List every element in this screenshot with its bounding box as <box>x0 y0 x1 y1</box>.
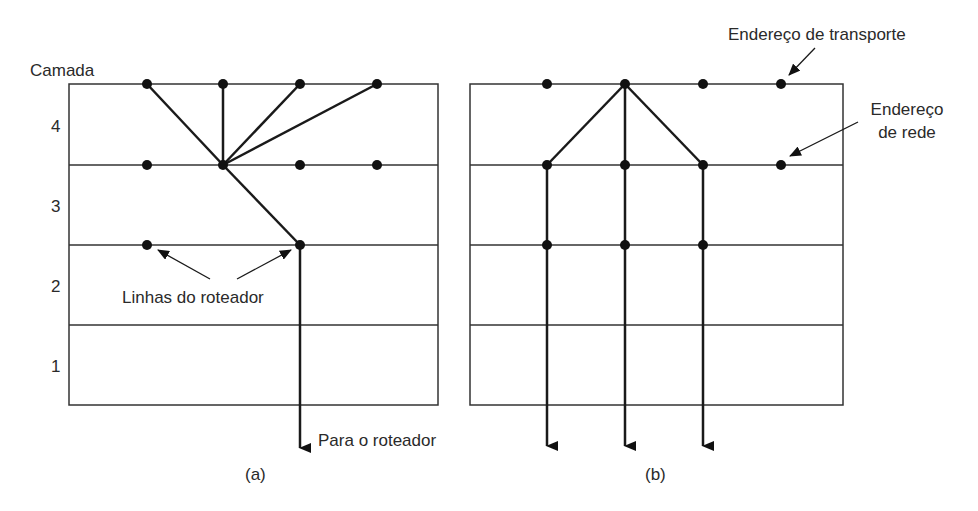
node <box>698 240 708 250</box>
panel-a <box>69 79 438 448</box>
node <box>295 240 305 250</box>
node <box>698 160 708 170</box>
node <box>698 79 708 89</box>
panel-b-connections <box>547 84 703 446</box>
node <box>776 160 786 170</box>
node <box>295 79 305 89</box>
router-lines-arrows <box>158 250 291 279</box>
network-address-line2: de rede <box>862 124 952 141</box>
to-router-label: Para o roteador <box>318 432 436 449</box>
node <box>620 79 630 89</box>
address-arrows <box>789 48 858 156</box>
node <box>142 240 152 250</box>
node <box>542 160 552 170</box>
node <box>542 79 552 89</box>
diagram-canvas <box>0 0 978 511</box>
node <box>620 160 630 170</box>
node <box>142 79 152 89</box>
transport-address-label: Endereço de transporte <box>728 26 906 43</box>
node <box>295 160 305 170</box>
network-address-line1: Endereço <box>862 101 952 118</box>
node <box>776 79 786 89</box>
layer-label-2: 2 <box>51 278 60 295</box>
layer-label-1: 1 <box>51 358 60 375</box>
router-lines-label: Linhas do roteador <box>122 289 264 306</box>
panel-b-caption: (b) <box>645 466 666 483</box>
panel-b <box>470 48 858 446</box>
node <box>218 79 228 89</box>
layer-axis-title: Camada <box>30 62 94 79</box>
layer-label-4: 4 <box>51 118 60 135</box>
node <box>142 160 152 170</box>
node <box>372 79 382 89</box>
node <box>620 240 630 250</box>
node <box>372 160 382 170</box>
network-address-label: Endereço de rede <box>862 101 952 141</box>
layer-label-3: 3 <box>51 198 60 215</box>
node <box>218 160 228 170</box>
panel-a-caption: (a) <box>245 466 266 483</box>
node <box>542 240 552 250</box>
